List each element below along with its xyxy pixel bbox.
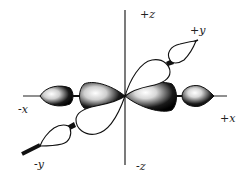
- orbital-diagram: +z -z +y -y +x -x: [0, 0, 249, 186]
- origin: [124, 95, 127, 98]
- neg-x-outer-lobe: [40, 86, 73, 106]
- pos-y-outer-lobe: [168, 41, 196, 63]
- neg-y-outer-lobe: [40, 125, 71, 146]
- label-pos-z: +z: [140, 8, 155, 21]
- label-neg-x: -x: [18, 103, 29, 116]
- neg-y-axis-stub: [22, 145, 40, 154]
- pos-x-outer-lobe: [182, 85, 214, 106]
- label-neg-z: -z: [136, 160, 146, 173]
- label-neg-y: -y: [34, 158, 45, 171]
- label-pos-y: +y: [190, 24, 206, 37]
- label-pos-x: +x: [220, 112, 236, 125]
